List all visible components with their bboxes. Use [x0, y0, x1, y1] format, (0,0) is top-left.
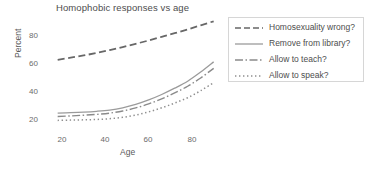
legend-entry-remove-from-library: Remove from library?: [235, 36, 350, 51]
legend-line-sample-solid: [235, 38, 263, 50]
series-line: [58, 83, 214, 121]
series-line: [58, 21, 214, 60]
series-line: [58, 62, 214, 113]
legend-label: Allow to teach?: [269, 55, 327, 64]
legend-line-sample-dashdot: [235, 54, 263, 66]
legend-label: Remove from library?: [269, 39, 350, 48]
legend-label: Homosexuality wrong?: [269, 23, 355, 32]
chart-figure: Homophobic responses vs age Percent Age …: [0, 0, 371, 178]
chart-legend: Homosexuality wrong? Remove from library…: [228, 17, 364, 82]
legend-entry-homosexuality-wrong: Homosexuality wrong?: [235, 20, 355, 35]
legend-entry-allow-to-speak: Allow to speak?: [235, 68, 329, 83]
legend-label: Allow to speak?: [269, 71, 329, 80]
legend-line-sample-dashed: [235, 22, 263, 34]
legend-entry-allow-to-teach: Allow to teach?: [235, 52, 327, 67]
series-line: [58, 68, 214, 116]
legend-line-sample-dotted: [235, 70, 263, 82]
